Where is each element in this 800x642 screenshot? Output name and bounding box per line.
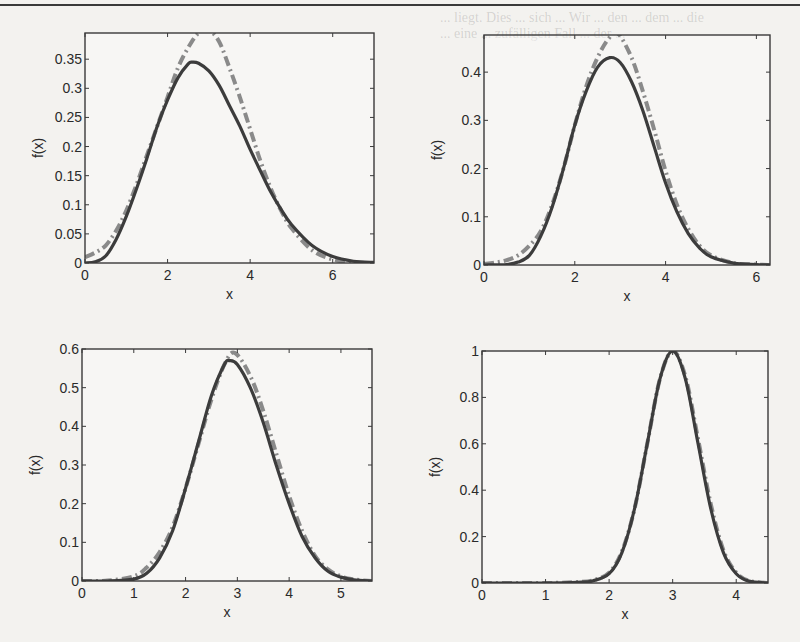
y-axis-label: f(x) [27, 455, 43, 475]
y-tick-label: 0 [74, 255, 82, 271]
page-top-rule [0, 4, 800, 6]
x-tick-label: 2 [605, 587, 613, 603]
y-axis-label: f(x) [30, 138, 46, 158]
x-axis-label: x [226, 286, 233, 302]
chart-top-left: 024600.050.10.150.20.250.30.35xf(x) [85, 33, 374, 263]
x-tick-label: 3 [233, 585, 241, 601]
y-tick-label: 0.25 [55, 109, 82, 125]
y-tick-label: 0.6 [60, 341, 80, 357]
y-tick-label: 0 [71, 573, 79, 589]
x-tick-label: 4 [285, 585, 293, 601]
x-tick-label: 6 [752, 269, 760, 285]
x-tick-label: 3 [669, 587, 677, 603]
y-tick-label: 0.3 [63, 80, 83, 96]
y-tick-label: 0.2 [462, 161, 482, 177]
y-axis-label: f(x) [427, 457, 443, 477]
chart-bottom-left: 01234500.10.20.30.40.50.6xf(x) [82, 349, 372, 581]
y-axis-label: f(x) [429, 140, 445, 160]
plot-background [85, 33, 374, 263]
x-tick-label: 0 [478, 587, 486, 603]
x-tick-label: 0 [78, 585, 86, 601]
x-tick-label: 0 [480, 269, 488, 285]
x-tick-label: 4 [662, 269, 670, 285]
chart-top-right: 024600.10.20.30.4xf(x) [484, 35, 770, 265]
y-tick-label: 0.4 [462, 64, 482, 80]
x-axis-label: x [622, 606, 629, 622]
x-tick-label: 2 [571, 269, 579, 285]
plot-area: 024600.10.20.30.4xf(x) [484, 35, 770, 265]
y-tick-label: 0 [471, 575, 479, 591]
x-tick-label: 1 [130, 585, 138, 601]
x-axis-label: x [224, 604, 231, 620]
y-tick-label: 0.8 [460, 389, 480, 405]
y-tick-label: 0.5 [60, 380, 80, 396]
y-tick-label: 0.05 [55, 226, 82, 242]
plot-area: 01234500.10.20.30.40.50.6xf(x) [82, 349, 372, 581]
y-tick-label: 0.35 [55, 51, 82, 67]
y-tick-label: 0 [473, 257, 481, 273]
x-tick-label: 2 [164, 267, 172, 283]
plot-background [484, 35, 770, 265]
y-tick-label: 0.2 [63, 139, 83, 155]
y-tick-label: 0.1 [60, 534, 80, 550]
x-axis-label: x [624, 288, 631, 304]
plot-area: 024600.050.10.150.20.250.30.35xf(x) [85, 33, 374, 263]
y-tick-label: 0.3 [60, 457, 80, 473]
y-tick-label: 0.4 [60, 418, 80, 434]
bleed-line-1: ... liegt. Dies ... sich ... Wir ... den… [440, 10, 800, 26]
plot-background [82, 349, 372, 581]
x-tick-label: 6 [329, 267, 337, 283]
x-tick-label: 5 [337, 585, 345, 601]
chart-bottom-right: 0123400.20.40.60.81xf(x) [482, 351, 768, 583]
y-tick-label: 0.6 [460, 436, 480, 452]
x-tick-label: 4 [732, 587, 740, 603]
y-tick-label: 0.2 [60, 496, 80, 512]
y-tick-label: 1 [471, 343, 479, 359]
y-tick-label: 0.3 [462, 112, 482, 128]
y-tick-label: 0.4 [460, 482, 480, 498]
y-tick-label: 0.1 [462, 209, 482, 225]
x-tick-label: 4 [246, 267, 254, 283]
y-tick-label: 0.1 [63, 197, 83, 213]
x-tick-label: 1 [542, 587, 550, 603]
y-tick-label: 0.2 [460, 529, 480, 545]
x-tick-label: 2 [182, 585, 190, 601]
plot-area: 0123400.20.40.60.81xf(x) [482, 351, 768, 583]
x-tick-label: 0 [81, 267, 89, 283]
y-tick-label: 0.15 [55, 168, 82, 184]
